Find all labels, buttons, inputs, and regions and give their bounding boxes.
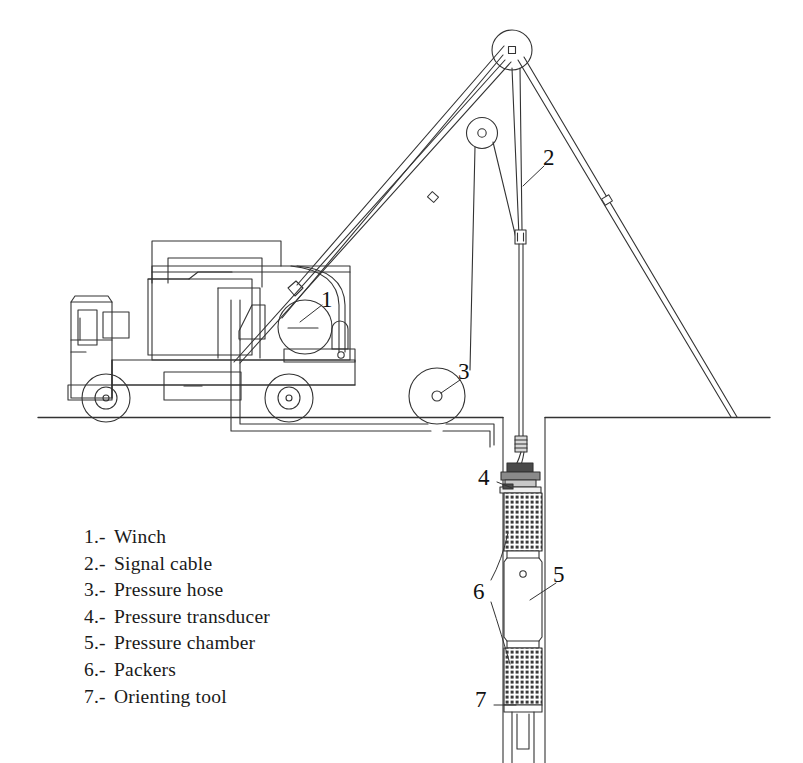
legend-item-5: 5.-Pressure chamber (84, 630, 414, 657)
callout-3: 3 (458, 360, 470, 383)
legend-label-5: Pressure chamber (114, 632, 255, 653)
legend-label-1: Winch (114, 526, 166, 547)
legend-item-2: 2.-Signal cable (84, 551, 414, 578)
legend-number-3: 3.- (84, 577, 114, 604)
callout-1: 1 (321, 288, 333, 311)
signal-cable (515, 68, 526, 438)
legend-item-3: 3.-Pressure hose (84, 577, 414, 604)
upper-packer (504, 493, 542, 551)
legend-number-5: 5.- (84, 630, 114, 657)
crown-pulley (492, 30, 532, 70)
callout-4: 4 (478, 466, 490, 489)
lower-packer (504, 648, 542, 705)
truck-wheel-rear (265, 374, 313, 422)
secondary-pulley (467, 118, 498, 149)
legend-number-6: 6.- (84, 657, 114, 684)
legend-item-1: 1.-Winch (84, 524, 414, 551)
downhole-tool (500, 436, 542, 763)
derrick-mast (234, 30, 737, 417)
pressure-transducer (500, 463, 541, 493)
hose-reel (409, 368, 465, 424)
legend-label-3: Pressure hose (114, 579, 223, 600)
callout-2: 2 (543, 146, 555, 169)
legend-number-2: 2.- (84, 551, 114, 578)
pressure-chamber (504, 551, 542, 648)
legend-label-7: Orienting tool (114, 686, 227, 707)
legend-label-6: Packers (114, 659, 176, 680)
callout-5: 5 (553, 563, 565, 586)
legend-number-1: 1.- (84, 524, 114, 551)
orienting-tool (504, 705, 542, 763)
legend-number-7: 7.- (84, 684, 114, 711)
callout-6: 6 (473, 580, 485, 603)
legend-item-7: 7.-Orienting tool (84, 684, 414, 711)
legend-label-2: Signal cable (114, 553, 212, 574)
winch-motor (332, 321, 348, 349)
legend-label-4: Pressure transducer (114, 606, 270, 627)
legend-number-4: 4.- (84, 604, 114, 631)
legend-item-4: 4.-Pressure transducer (84, 604, 414, 631)
cable-splice (515, 436, 527, 452)
diagram-canvas: 1 2 3 4 5 6 7 1.-Winch 2.-Signal cable 3… (0, 0, 803, 763)
callout-7: 7 (475, 688, 487, 711)
legend-item-6: 6.-Packers (84, 657, 414, 684)
legend: 1.-Winch 2.-Signal cable 3.-Pressure hos… (84, 524, 414, 710)
